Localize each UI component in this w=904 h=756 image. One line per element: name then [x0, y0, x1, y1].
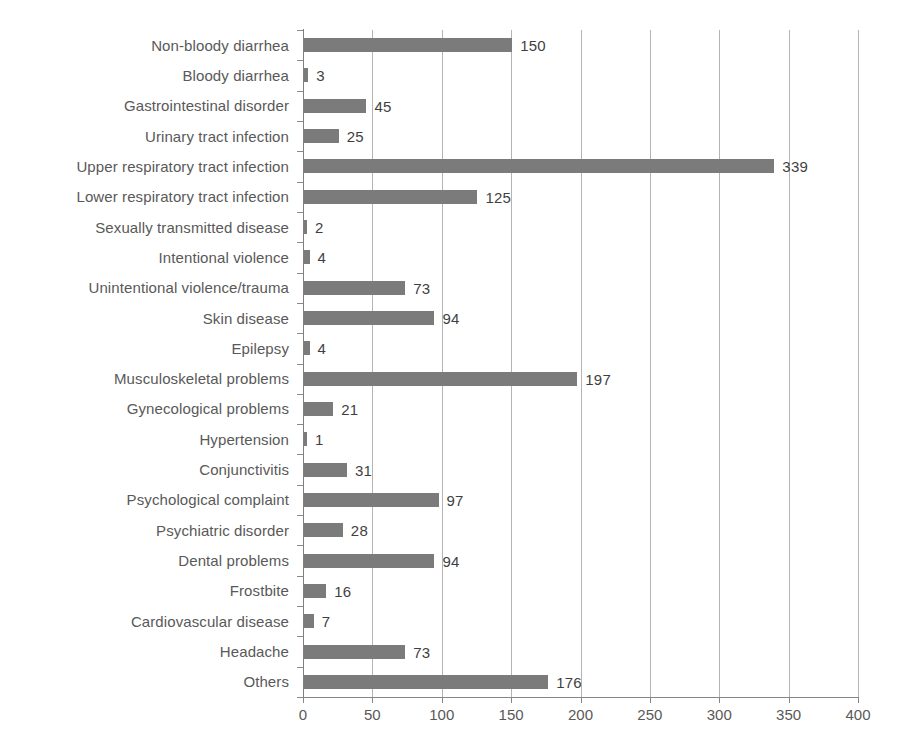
x-axis-tick — [650, 697, 651, 703]
bar — [304, 38, 512, 52]
bar-value-label: 125 — [485, 188, 511, 205]
bar-row: 2 — [303, 212, 858, 242]
x-axis-tick-label: 150 — [499, 706, 524, 723]
bar-row: 97 — [303, 485, 858, 515]
bar-row: 7 — [303, 606, 858, 636]
x-axis-tick-label: 50 — [364, 706, 381, 723]
bar-row: 4 — [303, 242, 858, 272]
bar-value-label: 150 — [520, 37, 546, 54]
bar-row: 16 — [303, 576, 858, 606]
bar-row: 150 — [303, 30, 858, 60]
bar-row: 94 — [303, 303, 858, 333]
x-axis-tick — [442, 697, 443, 703]
bar-row: 45 — [303, 91, 858, 121]
bar-row: 73 — [303, 636, 858, 666]
bar — [304, 402, 333, 416]
bar — [304, 493, 439, 507]
bar — [304, 463, 347, 477]
bar — [304, 220, 307, 234]
x-axis-tick-label: 100 — [429, 706, 454, 723]
bar-row: 21 — [303, 394, 858, 424]
x-axis-tick-label: 0 — [299, 706, 307, 723]
bar-value-label: 73 — [413, 279, 430, 296]
x-axis-tick-label: 250 — [637, 706, 662, 723]
bar-value-label: 21 — [341, 400, 358, 417]
y-axis-label: Non-bloody diarrhea — [151, 30, 289, 60]
bar-row: 73 — [303, 273, 858, 303]
bar-value-label: 2 — [315, 219, 324, 236]
horizontal-bar-chart: Non-bloody diarrheaBloody diarrheaGastro… — [0, 0, 904, 756]
bar-row: 3 — [303, 60, 858, 90]
y-axis-label: Musculoskeletal problems — [114, 364, 289, 394]
y-axis-label: Urinary tract infection — [145, 121, 289, 151]
bar — [304, 281, 405, 295]
bar-value-label: 197 — [585, 370, 611, 387]
bar-row: 25 — [303, 121, 858, 151]
bar — [304, 190, 477, 204]
bar-row: 339 — [303, 151, 858, 181]
bar — [304, 584, 326, 598]
bar-row: 31 — [303, 454, 858, 484]
y-axis-label: Lower respiratory tract infection — [76, 182, 289, 212]
bar — [304, 554, 434, 568]
bar — [304, 129, 339, 143]
bar — [304, 645, 405, 659]
bar-value-label: 97 — [447, 491, 464, 508]
bar-row: 125 — [303, 182, 858, 212]
y-axis-label: Gynecological problems — [127, 394, 289, 424]
y-axis-label: Sexually transmitted disease — [95, 212, 289, 242]
bar-value-label: 1 — [315, 431, 324, 448]
bar — [304, 311, 434, 325]
bar — [304, 523, 343, 537]
x-axis-tick-label: 300 — [707, 706, 732, 723]
bar — [304, 614, 314, 628]
bar-value-label: 25 — [347, 128, 364, 145]
y-axis-label: Skin disease — [203, 303, 289, 333]
bar — [304, 675, 548, 689]
bar-value-label: 94 — [442, 552, 459, 569]
plot-area: 1503452533912524739441972113197289416773… — [303, 30, 858, 697]
bar-value-label: 45 — [374, 97, 391, 114]
bar — [304, 250, 310, 264]
y-axis-label: Others — [243, 667, 289, 697]
gridline-400 — [858, 30, 859, 697]
bar-row: 4 — [303, 333, 858, 363]
bar-value-label: 73 — [413, 643, 430, 660]
y-axis-label: Headache — [220, 636, 289, 666]
y-axis-label: Upper respiratory tract infection — [76, 151, 289, 181]
bar-value-label: 7 — [322, 613, 331, 630]
y-axis-label: Conjunctivitis — [199, 454, 289, 484]
x-axis-tick — [303, 697, 304, 703]
bar-row: 197 — [303, 364, 858, 394]
y-axis-label: Psychological complaint — [127, 485, 289, 515]
y-axis-label: Dental problems — [178, 545, 289, 575]
x-axis-tick-label: 400 — [845, 706, 870, 723]
bar-value-label: 3 — [316, 67, 325, 84]
bar-row: 28 — [303, 515, 858, 545]
bar-row: 176 — [303, 667, 858, 697]
x-axis-tick-label: 200 — [568, 706, 593, 723]
bar — [304, 68, 308, 82]
x-axis-tick — [858, 697, 859, 703]
bar-value-label: 94 — [442, 310, 459, 327]
y-axis-label: Gastrointestinal disorder — [124, 91, 289, 121]
bar-value-label: 4 — [318, 340, 327, 357]
y-axis-label: Intentional violence — [159, 242, 289, 272]
bar — [304, 159, 774, 173]
x-axis-tick — [511, 697, 512, 703]
bar — [304, 372, 577, 386]
bar — [304, 341, 310, 355]
y-axis-label: Cardiovascular disease — [131, 606, 289, 636]
x-axis-tick — [789, 697, 790, 703]
x-axis-tick-label: 350 — [776, 706, 801, 723]
bar — [304, 432, 307, 446]
bar-row: 1 — [303, 424, 858, 454]
y-axis-label: Frostbite — [230, 576, 289, 606]
bar-value-label: 16 — [334, 582, 351, 599]
bar-value-label: 339 — [782, 158, 808, 175]
bar-value-label: 176 — [556, 673, 582, 690]
y-axis-label: Unintentional violence/trauma — [88, 273, 289, 303]
bar-value-label: 28 — [351, 522, 368, 539]
x-axis-tick — [372, 697, 373, 703]
bar-value-label: 4 — [318, 249, 327, 266]
